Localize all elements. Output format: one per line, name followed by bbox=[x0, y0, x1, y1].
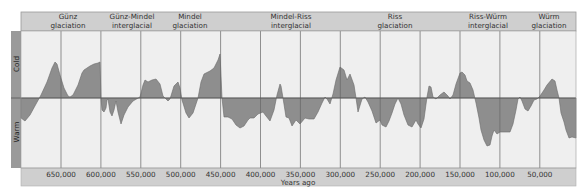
x-tick-label: 450,000 bbox=[206, 170, 236, 179]
x-tick-label: 600,000 bbox=[86, 170, 116, 179]
period-label: Würmglaciation bbox=[531, 13, 566, 32]
x-tick-label: 550,000 bbox=[126, 170, 156, 179]
temperature-side-band bbox=[11, 31, 21, 168]
x-tick-label: 650,000 bbox=[46, 170, 76, 179]
x-tick-label: 100,000 bbox=[485, 170, 515, 179]
x-tick-label: 300,000 bbox=[325, 170, 355, 179]
cold-label: Cold bbox=[12, 56, 21, 72]
x-tick-label: 200,000 bbox=[405, 170, 435, 179]
period-label: Günzglaciation bbox=[50, 13, 85, 32]
x-tick-label: 250,000 bbox=[365, 170, 395, 179]
x-axis-title: Years ago bbox=[281, 178, 316, 187]
x-tick-label: 400,000 bbox=[246, 170, 276, 179]
period-label: Riss-Würminterglacial bbox=[468, 13, 508, 32]
period-label: Günz-Mindelinterglacial bbox=[110, 13, 155, 32]
period-label: Mindelglaciation bbox=[172, 13, 207, 32]
x-tick-label: 500,000 bbox=[166, 170, 196, 179]
x-tick-label: 150,000 bbox=[445, 170, 475, 179]
period-label: Mindel-Rissinterglacial bbox=[271, 13, 312, 32]
period-label: Rissglaciation bbox=[377, 13, 412, 32]
x-tick-label: 50,000 bbox=[527, 170, 552, 179]
warm-label: Warm bbox=[12, 122, 21, 143]
